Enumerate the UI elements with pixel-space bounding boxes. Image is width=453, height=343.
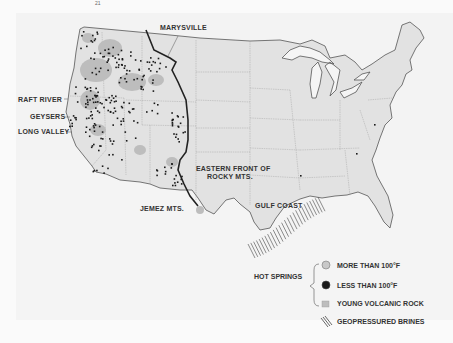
- hot-spring-dot: [133, 79, 135, 81]
- hot-spring-dot: [120, 121, 122, 123]
- hot-spring-dot: [90, 111, 92, 113]
- hot-spring-dot: [95, 88, 97, 90]
- hot-spring-dot: [150, 70, 152, 72]
- hot-spring-dot: [149, 62, 151, 64]
- legend-item-less-than-100: LESS THAN 100°F: [337, 282, 397, 289]
- brine-hatch-line: [254, 242, 261, 256]
- hot-spring-dot: [97, 33, 99, 35]
- hot-spring-dot: [142, 89, 144, 91]
- hot-spring-dot: [93, 102, 95, 104]
- hot-spring-dot: [94, 40, 96, 42]
- hot-spring-dot: [95, 101, 97, 103]
- hot-spring-dot: [178, 141, 180, 143]
- brine-hatch-line: [265, 236, 272, 250]
- hot-spring-dot: [129, 103, 131, 105]
- hot-spring-dot: [92, 72, 94, 74]
- legend-item-more-than-100: MORE THAN 100°F: [337, 262, 400, 269]
- hot-spring-dot: [71, 123, 73, 125]
- hot-spring-dot: [126, 81, 128, 83]
- hot-spring-dot: [157, 113, 159, 115]
- hot-spring-dot: [94, 52, 96, 54]
- hot-spring-dot: [102, 131, 104, 133]
- hot-spring-dot: [86, 126, 88, 128]
- brine-hatch-line: [251, 243, 258, 257]
- hot-spring-dot: [172, 119, 174, 121]
- hot-spring-dot: [75, 119, 77, 121]
- hot-spring-dot: [87, 99, 89, 101]
- hot-spring-dot: [90, 87, 92, 89]
- hot-spring-dot: [80, 48, 82, 50]
- hot-spring-dot: [147, 61, 149, 63]
- brine-hatch-line: [287, 218, 294, 232]
- hot-spring-dot: [152, 82, 154, 84]
- hot-spring-dot: [177, 115, 179, 117]
- hot-spring-dot: [110, 102, 112, 104]
- hot-spring-dot: [107, 168, 109, 170]
- hot-spring-dot: [107, 70, 109, 72]
- brine-hatch-line: [284, 220, 291, 234]
- hot-spring-dot: [181, 176, 183, 178]
- gray-square-symbol: [322, 301, 329, 307]
- hot-spring-dot: [124, 78, 126, 80]
- hot-spring-dot: [96, 32, 98, 34]
- hot-spring-dot: [172, 125, 174, 127]
- hot-spring-dot: [91, 114, 93, 116]
- hot-spring-dot: [95, 38, 97, 40]
- hot-spring-dot: [160, 63, 162, 65]
- hot-spring-dot: [106, 99, 108, 101]
- hot-spring-dot: [93, 171, 95, 173]
- hot-spring-dot: [135, 137, 137, 139]
- hot-spring-dot: [104, 49, 106, 51]
- brine-hatch-line: [273, 230, 280, 244]
- hot-spring-dot: [110, 111, 112, 113]
- hot-spring-dot: [113, 97, 115, 99]
- hot-spring-dot: [112, 47, 114, 49]
- hot-spring-dot: [117, 118, 119, 120]
- hot-spring-dot: [109, 53, 111, 55]
- hot-spring-dot: [159, 68, 161, 70]
- hot-spring-dot: [113, 112, 115, 114]
- hot-spring-dot: [108, 154, 110, 156]
- brine-hatch-line: [307, 203, 314, 217]
- hot-spring-dot: [173, 133, 175, 135]
- hot-spring-dot: [121, 64, 123, 66]
- hot-spring-dot: [137, 122, 139, 124]
- label-marysville: MARYSVILLE: [160, 24, 207, 32]
- hot-spring-dot: [93, 58, 95, 60]
- hot-spring-dot: [99, 112, 101, 114]
- label-raft-river: RAFT RIVER: [18, 96, 62, 104]
- hot-spring-dot: [177, 126, 179, 128]
- hot-spring-dot: [181, 183, 183, 185]
- brine-hatch-line: [312, 200, 319, 214]
- hot-spring-dot: [171, 163, 173, 165]
- hot-spring-dot: [107, 60, 109, 62]
- hot-spring-dot: [175, 136, 177, 138]
- hot-spring-dot: [92, 145, 94, 147]
- hot-spring-dot: [89, 99, 91, 101]
- hot-spring-dot: [156, 175, 158, 177]
- hot-spring-dot: [98, 150, 100, 152]
- hot-spring-dot: [148, 68, 150, 70]
- hot-spring-dot: [151, 110, 153, 112]
- hot-spring-dot: [99, 71, 101, 73]
- brine-hatch-line: [262, 238, 269, 252]
- hot-spring-dot: [120, 124, 122, 126]
- hot-spring-dot: [176, 134, 178, 136]
- hot-spring-dot: [102, 138, 104, 140]
- hot-spring-dot: [93, 144, 95, 146]
- hot-spring-dot: [88, 117, 90, 119]
- brine-hatch-line: [318, 197, 325, 211]
- hot-spring-dot: [123, 118, 125, 120]
- label-jemez: JEMEZ MTS.: [140, 205, 184, 213]
- hot-spring-dot: [85, 106, 87, 108]
- hot-spring-dot: [100, 102, 102, 104]
- brine-hatch-line: [276, 228, 283, 242]
- hot-spring-dot: [115, 111, 117, 113]
- label-long-valley: LONG VALLEY: [18, 128, 69, 136]
- hot-spring-dot: [96, 170, 98, 172]
- hot-spring-dot: [89, 136, 91, 138]
- hot-spring-dot: [118, 59, 120, 61]
- hot-spring-dot: [97, 92, 99, 94]
- hot-spring-dot: [183, 116, 185, 118]
- hot-spring-dot: [119, 82, 121, 84]
